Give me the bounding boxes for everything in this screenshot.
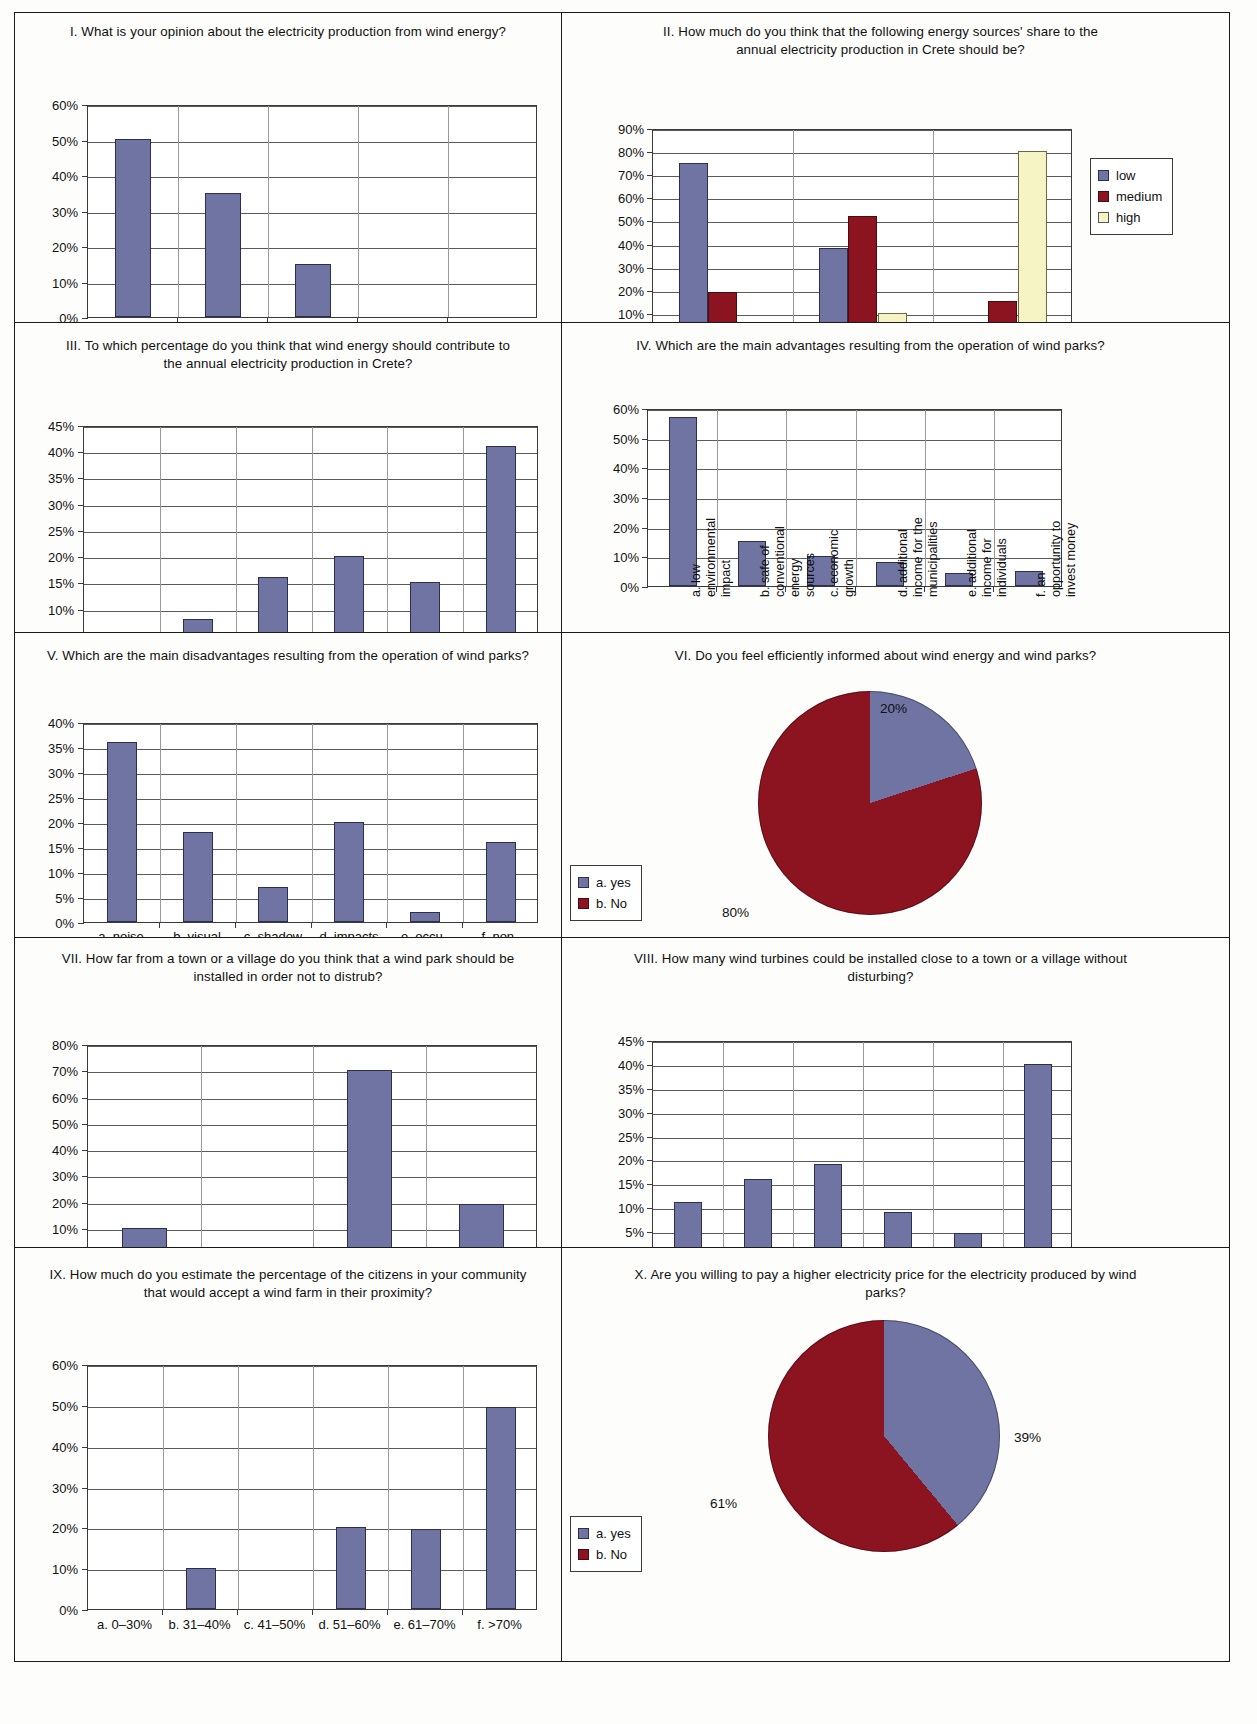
y-tick-label: 25% [48,524,74,539]
bar [1024,1064,1052,1248]
legend-item: b. No [578,1544,631,1565]
x-tick-mark [462,1610,463,1615]
y-tick-label: 15% [48,840,74,855]
y-tick-mark [78,452,84,453]
category-separator [933,130,934,323]
y-tick-mark [82,1229,88,1230]
legend-item: high [1098,207,1162,228]
y-tick-mark [78,505,84,506]
gridline [88,1366,536,1367]
bar [814,1164,842,1248]
y-tick-mark [647,1041,653,1042]
x-label-wrap: b. safe of conventional energy sources [758,597,759,598]
y-tick-label: 80% [618,145,644,160]
y-tick-mark [78,531,84,532]
x-tick-label: e. occu- pation of land [386,929,462,938]
y-tick-mark [647,1184,653,1185]
x-tick-label: f. non- guaranteed production [462,929,538,938]
y-tick-mark [78,848,84,849]
y-tick-label: 35% [48,740,74,755]
y-tick-label: 20% [48,550,74,565]
legend-label: a. yes [596,875,631,890]
bar [486,1407,516,1609]
y-tick-label: 10% [52,275,78,290]
x-tick-mark [312,1610,313,1615]
x-tick-label: b. visual impacts [159,929,235,938]
y-tick-mark [82,212,88,213]
gridline [653,1161,1071,1162]
gridline [653,1138,1071,1139]
y-tick-label: 20% [48,815,74,830]
category-separator [160,427,161,633]
category-separator [863,1042,864,1248]
bar [411,1529,441,1609]
x-tick-mark [159,923,160,928]
x-tick-label: d. 51–60% [312,1617,387,1633]
category-separator [933,1042,934,1248]
y-tick-mark [82,1610,88,1611]
gridline [88,1529,536,1530]
gridline [84,899,537,900]
y-tick-label: 40% [52,1143,78,1158]
x-tick-mark [162,1610,163,1615]
x-tick-label: c. economic growth [827,487,857,597]
gridline [84,558,537,559]
gridline [84,506,537,507]
y-tick-mark [647,1137,653,1138]
pie-X-slice-label-no: 61% [710,1496,737,1511]
y-tick-label: 30% [52,1481,78,1496]
y-tick-label: 40% [618,1058,644,1073]
bar [988,301,1017,323]
chart-panel-II: II. How much do you think that the follo… [562,13,1229,323]
gridline [84,849,537,850]
bar [183,832,213,922]
y-tick-mark [647,1089,653,1090]
y-tick-mark [647,291,653,292]
x-tick-label: a. low environmental impact [689,487,734,597]
gridline [84,532,537,533]
chart-title-VI: VI. Do you feel efficiently informed abo… [562,633,1229,671]
y-tick-label: 60% [52,1091,78,1106]
legend-label: b. No [596,896,627,911]
gridline [88,1570,536,1571]
y-tick-label: 45% [618,1034,644,1049]
chart-panel-I: I. What is your opinion about the electr… [15,13,562,323]
y-tick-label: 50% [52,1399,78,1414]
y-tick-label: 30% [52,1169,78,1184]
gridline [84,479,537,480]
x-tick-label: c. 41–50% [237,1617,312,1633]
x-tick-label: b. 31–40% [162,1617,237,1633]
category-separator [1003,1042,1004,1248]
legend-swatch-yes [578,877,589,888]
gridline [88,1125,536,1126]
gridline [88,213,536,214]
chart-panel-V: V. Which are the main disadvantages resu… [15,633,562,938]
legend-label: a. yes [596,1526,631,1541]
gridline [653,1233,1071,1234]
bar [848,216,877,323]
plot-area [652,1041,1072,1248]
pie-VI [758,691,982,915]
y-tick-mark [82,1176,88,1177]
y-tick-label: 10% [613,549,639,564]
y-tick-mark [82,1447,88,1448]
y-tick-label: 30% [52,204,78,219]
y-tick-mark [82,176,88,177]
x-label-wrap: f. an opportunity to invest money [1034,597,1035,598]
chart-title-I: I. What is your opinion about the electr… [15,13,561,47]
y-tick-label: 30% [618,1106,644,1121]
category-separator [723,1042,724,1248]
y-tick-mark [82,1528,88,1529]
y-tick-mark [642,468,648,469]
gridline [653,1066,1071,1067]
gridline [84,799,537,800]
x-tick-label: f. >70% [462,1617,537,1633]
y-tick-label: 15% [48,576,74,591]
y-tick-label: 80% [52,1038,78,1053]
legend-swatch-medium [1098,191,1109,202]
category-separator [448,106,449,317]
gridline [84,611,537,612]
y-tick-mark [78,748,84,749]
x-tick-mark [235,923,236,928]
y-tick-label: 20% [52,1521,78,1536]
